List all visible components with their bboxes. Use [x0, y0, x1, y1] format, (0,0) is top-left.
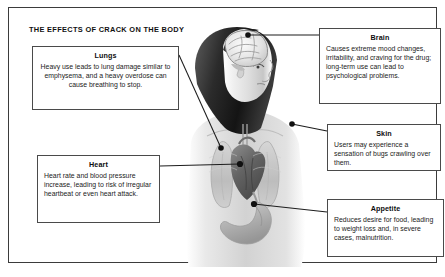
callout-brain-body: Causes extreme mood changes, irritabilit… [326, 44, 434, 80]
callout-skin-body: Users may experience a sensation of bugs… [334, 140, 434, 167]
callout-heart-body: Heart rate and blood pressure increase, … [44, 171, 153, 198]
anatomical-figure-illustration [169, 24, 319, 267]
callout-appetite-heading: Appetite [334, 204, 437, 213]
callout-lungs: Lungs Heavy use leads to lung damage sim… [32, 46, 179, 110]
poster-frame: THE EFFECTS OF CRACK ON THE BODY [8, 7, 437, 263]
callout-appetite: Appetite Reduces desire for food, leadin… [327, 199, 444, 257]
page-title: THE EFFECTS OF CRACK ON THE BODY [29, 25, 184, 34]
callout-heart: Heart Heart rate and blood pressure incr… [37, 155, 160, 223]
callout-appetite-body: Reduces desire for food, leading to weig… [334, 215, 437, 242]
callout-lungs-body: Heavy use leads to lung damage similar t… [39, 62, 172, 89]
callout-skin: Skin Users may experience a sensation of… [327, 124, 441, 171]
callout-heart-heading: Heart [44, 160, 153, 169]
callout-lungs-heading: Lungs [39, 51, 172, 60]
callout-brain-heading: Brain [326, 33, 434, 42]
callout-skin-heading: Skin [334, 129, 434, 138]
callout-brain: Brain Causes extreme mood changes, irrit… [319, 28, 441, 104]
